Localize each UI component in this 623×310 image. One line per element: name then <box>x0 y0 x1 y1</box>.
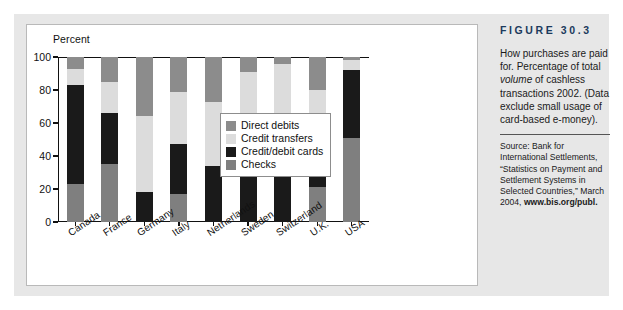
bar-segment <box>343 70 360 138</box>
bar-segment <box>240 57 257 72</box>
bar-segment <box>101 57 118 82</box>
source-url: www.bis.org/publ. <box>524 197 598 207</box>
caption-line-1: How purchases are paid <box>500 48 608 59</box>
bar-segment <box>67 57 84 69</box>
legend-label: Direct debits <box>241 120 299 131</box>
bar-segment <box>101 113 118 164</box>
bar-segment <box>67 184 84 222</box>
bar-segment <box>170 57 187 92</box>
bar-segment <box>136 116 153 192</box>
y-axis-label: 100 <box>33 52 51 63</box>
source-divider <box>500 134 610 135</box>
bar-segment <box>101 164 118 222</box>
bar-segment <box>343 57 360 60</box>
y-axis-label: 40 <box>39 151 51 162</box>
legend-swatch-icon <box>226 134 236 144</box>
figure-root: Percent 020406080100 CanadaFranceGermany… <box>0 0 623 310</box>
y-axis-label: 20 <box>39 184 51 195</box>
y-axis-title: Percent <box>53 33 90 45</box>
bar-stack <box>170 57 187 222</box>
legend-item: Credit transfers <box>226 132 323 145</box>
bar-segment <box>343 138 360 222</box>
y-axis-label: 60 <box>39 118 51 129</box>
caption-line-4: transactions 2002. (Data <box>500 88 609 99</box>
bar-segment <box>343 60 360 70</box>
legend-label: Credit transfers <box>241 133 313 144</box>
bar-segment <box>136 57 153 116</box>
source-note: Source: Bank for International Settlemen… <box>500 141 610 208</box>
chart-panel: Percent 020406080100 CanadaFranceGermany… <box>26 24 478 286</box>
caption-column: FIGURE 30.3 How purchases are paid for. … <box>500 24 610 208</box>
legend-item: Checks <box>226 158 323 171</box>
caption-line-5: exclude small usage of <box>500 101 602 112</box>
bar-segment <box>67 85 84 184</box>
bar-segment <box>205 57 222 102</box>
bar-segment <box>170 144 187 194</box>
legend-swatch-icon <box>226 121 236 131</box>
bar-stack <box>67 57 84 222</box>
y-axis-label: 80 <box>39 85 51 96</box>
bar-segment <box>274 57 291 64</box>
legend-label: Checks <box>241 159 276 170</box>
bar-segment <box>101 82 118 113</box>
bar-stack <box>343 57 360 222</box>
legend-label: Credit/debit cards <box>241 146 323 157</box>
figure-number: FIGURE 30.3 <box>500 24 610 36</box>
bar-stack <box>101 57 118 222</box>
legend-swatch-icon <box>226 147 236 157</box>
legend-item: Credit/debit cards <box>226 145 323 158</box>
bar-segment <box>309 57 326 90</box>
caption-line-2: for. Percentage of total <box>500 61 601 72</box>
figure-caption: How purchases are paid for. Percentage o… <box>500 47 610 126</box>
caption-line-3: of cashless <box>532 74 585 85</box>
caption-italic-volume: volume <box>500 74 532 85</box>
caption-line-6: card-based e-money). <box>500 114 598 125</box>
chart-legend: Direct debitsCredit transfersCredit/debi… <box>220 113 331 177</box>
y-axis-label: 0 <box>45 217 51 228</box>
bar-stack <box>136 57 153 222</box>
bar-segment <box>170 92 187 145</box>
legend-item: Direct debits <box>226 119 323 132</box>
bar-segment <box>67 69 84 86</box>
legend-swatch-icon <box>226 160 236 170</box>
